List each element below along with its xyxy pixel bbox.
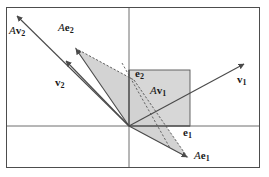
- label-v1: v1: [237, 74, 247, 87]
- label-v2-sub: 2: [61, 81, 65, 90]
- label-Ae2-prefix: A: [58, 21, 65, 33]
- label-Av2-sub: 2: [21, 29, 25, 38]
- label-Av2: Av2: [9, 25, 25, 38]
- label-Ae1-prefix: A: [194, 149, 201, 161]
- label-Ae2: Ae2: [58, 22, 74, 35]
- label-e1-sub: 1: [188, 131, 192, 140]
- label-v2: v2: [55, 77, 65, 90]
- figure-canvas: [0, 0, 269, 177]
- label-e2: e2: [135, 68, 144, 81]
- label-v1-sub: 1: [243, 78, 247, 87]
- label-Ae2-sub: 2: [70, 26, 74, 35]
- label-e2-sub: 2: [140, 72, 144, 81]
- label-Av1: Av1: [150, 85, 166, 98]
- label-Ae1-sub: 1: [206, 154, 210, 163]
- label-Ae1: Ae1: [194, 150, 210, 163]
- label-e1: e1: [183, 127, 192, 140]
- label-Av2-prefix: A: [9, 24, 16, 36]
- linear-transformation-figure: Av2 Ae2 v2 v1 e2 Av1 e1 Ae1: [0, 0, 269, 177]
- label-Av1-prefix: A: [150, 84, 157, 96]
- label-Av1-sub: 1: [162, 89, 166, 98]
